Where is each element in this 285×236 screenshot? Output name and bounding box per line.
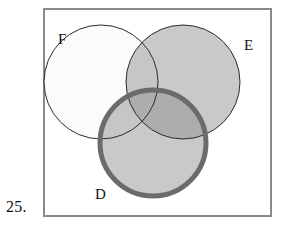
- set-label-f: F: [58, 31, 66, 47]
- set-label-e: E: [244, 37, 253, 53]
- venn-diagram-figure: 25.: [0, 0, 285, 236]
- set-label-d: D: [95, 186, 106, 202]
- venn-diagram-canvas: F E D: [0, 0, 285, 236]
